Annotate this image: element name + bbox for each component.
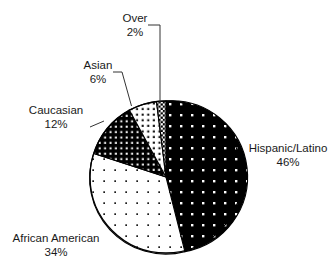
slice-label-asian: Asian 6% [70, 59, 126, 86]
slice-label-african-american: African American 34% [4, 232, 108, 259]
slice-label-hispanic-latino-name: Hispanic/Latino [245, 142, 331, 156]
pie-chart-figure: Over 2% Asian 6% Caucasian 12% African A… [0, 0, 333, 275]
slice-label-asian-name: Asian [70, 59, 126, 73]
slice-label-caucasian-name: Caucasian [24, 104, 88, 118]
slice-label-over-value: 2% [106, 26, 164, 40]
slice-label-african-american-name: African American [4, 232, 108, 246]
caucasian-leader-line [90, 121, 104, 127]
slice-label-hispanic-latino: Hispanic/Latino 46% [245, 142, 331, 169]
slice-label-caucasian-value: 12% [24, 118, 88, 132]
slice-label-caucasian: Caucasian 12% [24, 104, 88, 131]
slice-label-african-american-value: 34% [4, 246, 108, 260]
slice-label-over: Over 2% [106, 12, 164, 39]
slice-label-asian-value: 6% [70, 73, 126, 87]
slice-label-over-name: Over [106, 12, 164, 26]
slice-label-hispanic-latino-value: 46% [245, 156, 331, 170]
pie-slices [90, 101, 248, 254]
